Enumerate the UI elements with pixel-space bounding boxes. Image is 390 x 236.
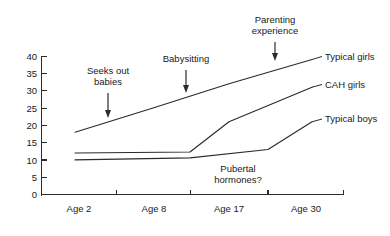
annotation-pubertal-hormones-line1: Pubertal: [220, 163, 255, 174]
series-line-typical-boys: [75, 122, 312, 160]
annotation-parenting-experience-arrow-head: [272, 53, 278, 61]
x-tick-label-age-2: Age 2: [67, 203, 92, 214]
x-axis: Age 2 Age 8 Age 17 Age 30: [42, 190, 345, 214]
x-tick-label-age-8: Age 8: [142, 203, 167, 214]
leader-typical-boys: [312, 119, 322, 122]
annotation-parenting-experience-line1: Parenting: [255, 14, 296, 25]
x-tick-label-age-17: Age 17: [214, 203, 244, 214]
y-axis: 40 35 30 25 20 15 10 5 0: [26, 51, 46, 200]
series-line-cah-girls: [75, 87, 312, 153]
series-label-typical-boys: Typical boys: [325, 113, 378, 124]
annotation-seeks-out-babies: Seeks out babies: [87, 65, 130, 118]
series-labels: Typical girls CAH girls Typical boys: [312, 51, 378, 124]
x-tick-label-age-30: Age 30: [291, 203, 321, 214]
annotation-pubertal-hormones: Pubertal hormones?: [214, 163, 262, 185]
annotation-seeks-out-babies-line1: Seeks out: [87, 65, 130, 76]
annotation-babysitting-line1: Babysitting: [163, 53, 209, 64]
annotation-seeks-out-babies-arrow-head: [105, 110, 111, 118]
y-tick-label-0: 0: [32, 189, 37, 200]
annotation-babysitting-arrow-head: [183, 85, 189, 93]
leader-typical-girls: [312, 57, 322, 60]
y-tick-label-10: 10: [26, 155, 37, 166]
series-label-cah-girls: CAH girls: [325, 79, 365, 90]
y-tick-label-40: 40: [26, 51, 37, 62]
y-tick-label-30: 30: [26, 85, 37, 96]
annotation-parenting-experience: Parenting experience: [252, 14, 298, 61]
y-tick-label-20: 20: [26, 120, 37, 131]
y-tick-label-35: 35: [26, 68, 37, 79]
annotation-seeks-out-babies-line2: babies: [94, 76, 122, 87]
chart-page: 40 35 30 25 20 15 10 5 0 Age 2 Age 8 Age…: [0, 0, 390, 236]
y-tick-label-15: 15: [26, 137, 37, 148]
y-tick-label-5: 5: [32, 172, 37, 183]
annotation-parenting-experience-line2: experience: [252, 25, 298, 36]
leader-cah-girls: [312, 85, 322, 88]
line-chart: 40 35 30 25 20 15 10 5 0 Age 2 Age 8 Age…: [0, 0, 390, 236]
annotation-babysitting: Babysitting: [163, 53, 209, 93]
annotation-pubertal-hormones-line2: hormones?: [214, 174, 262, 185]
y-tick-label-25: 25: [26, 103, 37, 114]
series-label-typical-girls: Typical girls: [325, 51, 375, 62]
